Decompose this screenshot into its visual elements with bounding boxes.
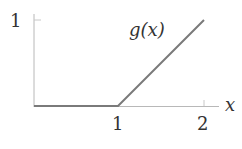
x-tick-label-1: 1 — [112, 113, 123, 134]
x-axis-label: x — [225, 94, 235, 115]
curve-g — [34, 20, 204, 106]
x-tick-label-2: 2 — [197, 113, 208, 134]
y-tick-label-1: 1 — [10, 10, 21, 31]
chart: 1 1 2 x g(x) — [0, 0, 242, 149]
curve-label: g(x) — [129, 19, 165, 40]
